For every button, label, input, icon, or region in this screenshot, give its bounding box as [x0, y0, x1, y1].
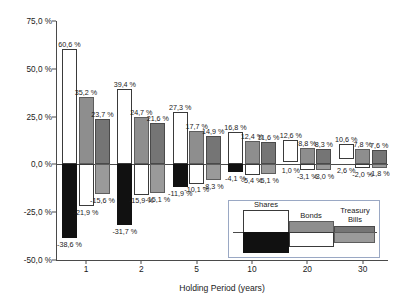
- bar-label-treasury-bills-max-20: 8,3 %: [315, 140, 333, 149]
- bar-treasury-bills-min-5: [206, 164, 221, 180]
- bar-label-treasury-bills-max-10: 11,6 %: [258, 133, 280, 142]
- bar-label-shares-min-1: -38,6 %: [57, 240, 82, 249]
- bar-bonds-max-10: [245, 141, 260, 165]
- bar-treasury-bills-max-10: [261, 142, 276, 164]
- bar-label-treasury-bills-min-1: -15,6 %: [90, 196, 115, 205]
- legend-label-shares-text: Shares: [254, 200, 278, 209]
- x-axis-tick-label: 10: [247, 264, 256, 274]
- legend-label-treasury-bills: Treasury Bills: [340, 207, 370, 224]
- bar-shares-min-10: [228, 164, 243, 172]
- bar-label-shares-max-1: 60,6 %: [58, 40, 80, 49]
- bar-treasury-bills-min-10: [261, 164, 276, 174]
- y-axis-tick-mark: [52, 164, 56, 165]
- x-axis-tick-mark: [141, 260, 142, 264]
- bar-treasury-bills-min-30: [372, 164, 387, 167]
- bar-shares-max-30: [339, 144, 354, 159]
- y-axis-line: [56, 21, 57, 260]
- bar-bonds-min-30: [355, 164, 370, 168]
- bar-shares-min-2: [117, 164, 132, 225]
- x-axis-tick-label: 5: [194, 264, 199, 274]
- bar-treasury-bills-min-1: [95, 164, 110, 194]
- y-axis-tick-label: 75,0 %: [6, 17, 52, 26]
- bar-shares-min-1: [62, 164, 77, 238]
- bar-label-treasury-bills-max-1: 23,7 %: [91, 110, 113, 119]
- legend-label-treasury-bills-line2: Bills: [348, 215, 362, 224]
- x-axis-line: [56, 260, 388, 261]
- bar-shares-min-5: [173, 164, 188, 187]
- x-axis-title: Holding Period (years): [56, 283, 388, 293]
- bar-shares-max-5: [173, 112, 188, 164]
- x-axis-tick-mark: [196, 260, 197, 264]
- chart-canvas: Compound Annual Returns 75,0 %50,0 %25,0…: [0, 0, 393, 300]
- y-axis-tick-mark: [52, 68, 56, 69]
- bar-bonds-min-20: [300, 164, 315, 170]
- legend-label-bonds: Bonds: [300, 212, 322, 221]
- bar-bonds-max-1: [79, 97, 94, 164]
- y-axis-tick-mark: [52, 260, 56, 261]
- bar-label-treasury-bills-max-5: 14,9 %: [202, 127, 224, 136]
- y-axis-tick-group: 75,0 %50,0 %25,0 %0,0 %-25,0 %-50,0 %: [0, 0, 52, 300]
- bar-label-treasury-bills-max-2: 21,6 %: [147, 114, 169, 123]
- y-axis-tick-mark: [52, 21, 56, 22]
- bar-treasury-bills-max-1: [95, 119, 110, 164]
- bar-treasury-bills-min-2: [150, 164, 165, 193]
- x-axis-tick-mark: [252, 260, 253, 264]
- x-axis-tick-mark: [86, 260, 87, 264]
- bar-bonds-min-2: [134, 164, 149, 194]
- legend-swatch-tbills-negative: [334, 232, 375, 243]
- bar-label-bonds-max-1: 35,2 %: [75, 88, 97, 97]
- bar-label-shares-max-5: 27,3 %: [169, 103, 191, 112]
- bar-bonds-min-10: [245, 164, 260, 174]
- y-axis-tick-label: 25,0 %: [6, 112, 52, 121]
- bar-bonds-max-20: [300, 148, 315, 165]
- x-axis-tick-label: 1: [84, 264, 89, 274]
- bar-label-treasury-bills-max-30: 7,6 %: [370, 141, 388, 150]
- bar-label-shares-min-2: -31,7 %: [112, 227, 137, 236]
- legend-swatch-shares-negative: [243, 232, 289, 253]
- y-axis-tick-label: 0,0 %: [6, 160, 52, 169]
- y-axis-tick-mark: [52, 116, 56, 117]
- bar-treasury-bills-max-5: [206, 136, 221, 164]
- bar-label-treasury-bills-min-5: -8,3 %: [203, 182, 224, 191]
- bar-treasury-bills-max-30: [372, 150, 387, 165]
- bar-treasury-bills-max-2: [150, 123, 165, 164]
- bar-label-treasury-bills-min-30: -1,8 %: [369, 169, 390, 178]
- legend-label-shares: Shares: [254, 201, 278, 210]
- bar-shares-max-1: [62, 49, 77, 165]
- y-axis-tick-label: 50,0 %: [6, 64, 52, 73]
- bar-label-bonds-min-1: -21,9 %: [74, 208, 99, 217]
- chart-legend: Shares Bonds Treasury Bills: [228, 200, 380, 258]
- bar-label-shares-max-2: 39,4 %: [114, 80, 136, 89]
- bar-treasury-bills-max-20: [316, 149, 331, 165]
- y-axis-tick-label: -50,0 %: [6, 256, 52, 265]
- x-axis-tick-label: 30: [358, 264, 367, 274]
- legend-label-bonds-text: Bonds: [300, 211, 322, 220]
- bar-label-treasury-bills-min-10: -5,1 %: [258, 176, 279, 185]
- bar-shares-max-2: [117, 89, 132, 164]
- bar-label-treasury-bills-min-20: -3,0 %: [313, 172, 334, 181]
- legend-swatch-shares-positive: [243, 210, 289, 233]
- x-axis-tick-label: 2: [139, 264, 144, 274]
- x-axis-tick-label: 20: [303, 264, 312, 274]
- x-axis-tick-mark: [362, 260, 363, 264]
- y-axis-tick-mark: [52, 212, 56, 213]
- bar-label-treasury-bills-min-2: -15,1 %: [145, 195, 170, 204]
- bar-shares-max-20: [283, 140, 298, 162]
- bar-treasury-bills-min-20: [316, 164, 331, 170]
- legend-swatch-bonds-negative: [289, 232, 334, 247]
- x-axis-tick-mark: [307, 260, 308, 264]
- bar-bonds-max-2: [134, 117, 149, 164]
- y-axis-tick-label: -25,0 %: [6, 208, 52, 217]
- bar-bonds-max-30: [355, 149, 370, 164]
